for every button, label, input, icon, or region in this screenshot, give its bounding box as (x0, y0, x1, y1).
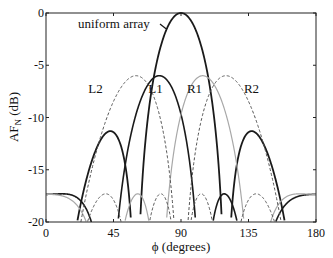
y-tick-label: -10 (28, 111, 44, 125)
x-tick-label: 180 (307, 226, 325, 240)
axis-ticks: 045901351800-5-10-15-20 (28, 6, 325, 240)
y-axis-title: AFN (dB) (6, 92, 23, 142)
x-axis-title: ϕ (degrees) (152, 239, 210, 254)
series-l2 (81, 76, 275, 222)
y-tick-label: 0 (38, 6, 44, 20)
x-tick-label: 135 (240, 226, 258, 240)
y-tick-label: -20 (28, 215, 44, 229)
x-tick-label: 45 (108, 226, 120, 240)
label-r2: R2 (244, 81, 259, 96)
series-r2 (88, 76, 282, 222)
x-tick-label: 90 (175, 226, 187, 240)
label-r1: R1 (187, 81, 202, 96)
label-uniform-array: uniform array (78, 16, 150, 31)
y-tick-label: -15 (28, 163, 44, 177)
label-l2: L2 (88, 81, 102, 96)
chart-curves (46, 13, 316, 222)
label-l1: L1 (148, 81, 162, 96)
series-l1 (46, 76, 316, 222)
array-factor-chart: 045901351800-5-10-15-20 uniform arrayL2L… (0, 0, 333, 258)
y-tick-label: -5 (34, 58, 44, 72)
series-r1 (46, 76, 316, 222)
curve-labels: uniform arrayL2L1R1R2 (78, 16, 259, 96)
